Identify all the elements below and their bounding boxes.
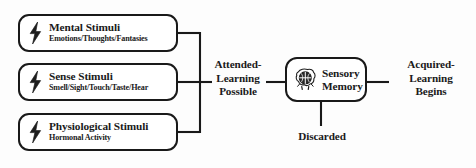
lightning-bolt-icon (27, 70, 44, 94)
stimulus-title: Sense Stimuli (49, 71, 148, 83)
stimulus-subtitle: Hormonal Activity (49, 134, 148, 142)
stimulus-text-mental: Mental Stimuli Emotions/Thoughts/Fantasi… (49, 22, 148, 43)
sensory-memory-box: SensoryMemory (285, 57, 367, 102)
brain-head-icon (293, 67, 318, 93)
stimulus-title: Physiological Stimuli (49, 121, 148, 133)
stimulus-box-mental: Mental Stimuli Emotions/Thoughts/Fantasi… (18, 14, 178, 52)
lightning-bolt-icon (27, 120, 44, 144)
discarded-label: Discarded (284, 130, 360, 144)
lightning-bolt-icon (27, 21, 44, 45)
stimulus-subtitle: Smell/Sight/Touch/Taste/Hear (49, 84, 148, 92)
acquired-learning-label: Acquired-LearningBegins (392, 58, 470, 99)
stimulus-box-physiological: Physiological Stimuli Hormonal Activity (18, 113, 178, 151)
sensory-memory-diagram: Mental Stimuli Emotions/Thoughts/Fantasi… (0, 0, 476, 168)
stimulus-title: Mental Stimuli (49, 22, 148, 34)
stimulus-subtitle: Emotions/Thoughts/Fantasies (49, 35, 148, 43)
stimulus-box-sense: Sense Stimuli Smell/Sight/Touch/Taste/He… (18, 63, 178, 101)
sensory-memory-label: SensoryMemory (322, 67, 363, 91)
stimulus-text-sense: Sense Stimuli Smell/Sight/Touch/Taste/He… (49, 71, 148, 92)
attended-learning-label: Attended-LearningPossible (206, 58, 270, 99)
stimulus-text-physiological: Physiological Stimuli Hormonal Activity (49, 121, 148, 142)
